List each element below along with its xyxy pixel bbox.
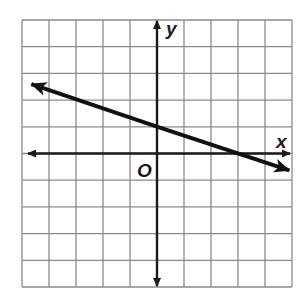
coordinate-plane: x y O bbox=[0, 0, 306, 305]
axes bbox=[28, 21, 290, 286]
line-left-ray bbox=[31, 84, 158, 127]
y-axis-label: y bbox=[165, 18, 178, 39]
line-right-ray bbox=[158, 127, 289, 170]
origin-label: O bbox=[137, 160, 152, 181]
x-axis-label: x bbox=[275, 131, 288, 152]
